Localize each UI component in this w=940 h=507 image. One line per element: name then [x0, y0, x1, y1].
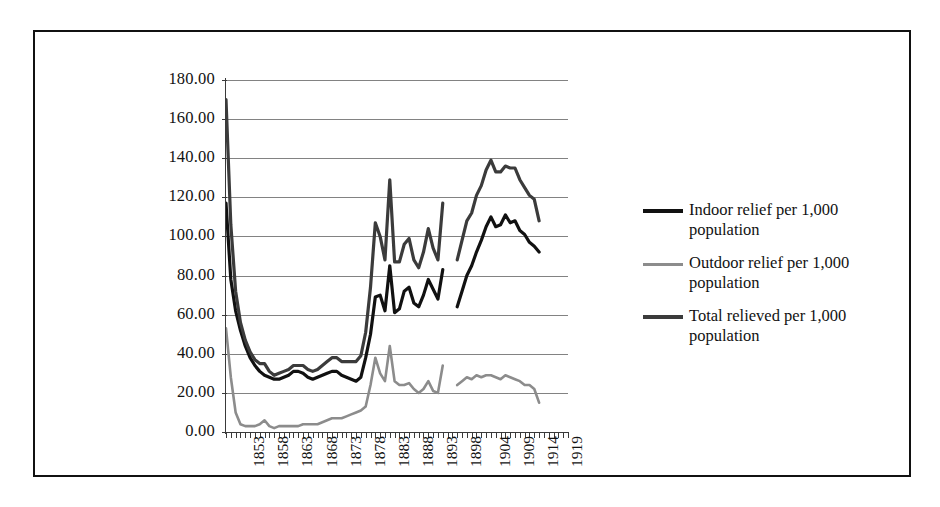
x-tick-mark	[491, 432, 492, 438]
y-tick-label: 0.00	[131, 423, 215, 440]
x-tick-mark	[539, 432, 540, 438]
x-tick-label: 1883	[396, 436, 412, 467]
chart-legend: Indoor relief per 1,000 population Outdo…	[643, 200, 873, 359]
x-tick-mark	[245, 432, 246, 438]
x-tick-mark	[226, 432, 227, 438]
x-tick-label: 1904	[497, 436, 513, 467]
x-tick-label: 1909	[521, 436, 537, 467]
x-tick-label: 1914	[545, 436, 561, 467]
series-line-outdoor	[457, 375, 539, 402]
y-tick-label: 140.00	[131, 149, 215, 166]
x-tick-mark	[515, 432, 516, 438]
x-tick-mark	[563, 432, 564, 438]
x-tick-mark	[293, 432, 294, 438]
series-svg	[226, 80, 568, 432]
x-tick-mark	[236, 432, 237, 438]
legend-swatch-outdoor	[643, 263, 683, 266]
x-tick-mark	[269, 432, 270, 438]
x-tick-mark	[438, 432, 439, 438]
plot-area	[226, 80, 568, 432]
figure-frame: 0.0020.0040.0060.0080.00100.00120.00140.…	[33, 30, 911, 477]
legend-item-outdoor: Outdoor relief per 1,000 population	[643, 253, 873, 293]
x-tick-mark	[231, 432, 232, 438]
series-line-outdoor	[226, 328, 443, 428]
x-tick-label: 1873	[348, 436, 364, 467]
legend-swatch-total	[643, 315, 683, 319]
y-tick-label: 80.00	[131, 267, 215, 284]
series-line-indoor	[226, 203, 443, 381]
x-tick-label: 1863	[299, 436, 315, 467]
y-tick-label: 160.00	[131, 110, 215, 127]
legend-item-indoor: Indoor relief per 1,000 population	[643, 200, 873, 240]
x-tick-mark	[342, 432, 343, 438]
legend-item-total: Total relieved per 1,000 population	[643, 306, 873, 346]
legend-label-total: Total relieved per 1,000 population	[689, 306, 846, 345]
series-line-indoor	[457, 215, 539, 307]
y-tick-label: 60.00	[131, 306, 215, 323]
legend-label-indoor: Indoor relief per 1,000 population	[689, 200, 838, 239]
x-tick-mark	[366, 432, 367, 438]
series-line-total	[226, 100, 443, 376]
x-tick-mark	[462, 432, 463, 438]
x-tick-mark	[414, 432, 415, 438]
x-axis-line	[225, 432, 569, 433]
x-tick-mark	[240, 432, 241, 438]
x-tick-label: 1919	[569, 436, 585, 467]
x-tick-mark	[390, 432, 391, 438]
y-tick-label: 120.00	[131, 188, 215, 205]
y-tick-label: 180.00	[131, 71, 215, 88]
series-line-total	[457, 160, 539, 260]
x-tick-label: 1893	[444, 436, 460, 467]
legend-swatch-indoor	[643, 209, 683, 213]
x-tick-label: 1853	[251, 436, 267, 467]
x-tick-label: 1858	[275, 436, 291, 467]
y-tick-label: 20.00	[131, 384, 215, 401]
x-tick-label: 1898	[468, 436, 484, 467]
x-tick-label: 1888	[420, 436, 436, 467]
y-tick-label: 40.00	[131, 345, 215, 362]
y-tick-label: 100.00	[131, 227, 215, 244]
figure-page: 0.0020.0040.0060.0080.00100.00120.00140.…	[0, 0, 940, 507]
x-tick-mark	[318, 432, 319, 438]
y-axis-labels: 0.0020.0040.0060.0080.00100.00120.00140.…	[131, 32, 215, 479]
x-tick-mark	[486, 432, 487, 438]
legend-label-outdoor: Outdoor relief per 1,000 population	[689, 253, 849, 292]
x-tick-label: 1878	[372, 436, 388, 467]
x-tick-label: 1868	[324, 436, 340, 467]
